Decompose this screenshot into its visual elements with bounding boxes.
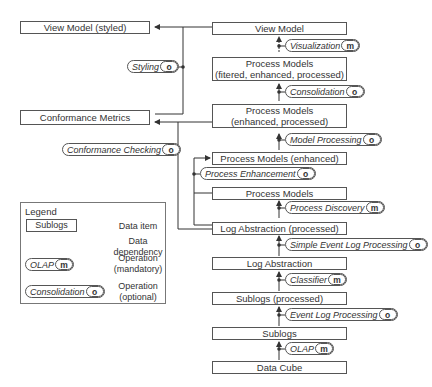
data-item-sublogs: Sublogs	[212, 327, 347, 340]
data-item-process-models-enhanced-processed: Process Models (enhanced, processed)	[212, 104, 347, 128]
data-item-process-models-enhanced: Process Models (enhanced)	[212, 152, 347, 165]
optional-badge: o	[379, 309, 397, 320]
mandatory-badge: m	[315, 343, 333, 354]
data-item-process-models-filtered: Process Models (fitered, enhanced, proce…	[212, 57, 347, 81]
data-item-label: Process Models (enhanced)	[220, 153, 338, 164]
optional-badge: o	[162, 144, 180, 155]
data-item-label: Conformance Metrics	[40, 112, 130, 123]
operation-olap: OLAPm	[285, 342, 334, 355]
legend-optional-example: Consolidationo	[25, 285, 105, 298]
data-item-view-model: View Model	[212, 22, 347, 35]
optional-badge: o	[409, 239, 427, 250]
data-item-label: Sublogs (processed)	[236, 293, 323, 304]
operation-consolidation: Consolidationo	[285, 85, 365, 98]
operation-model-processing: Model Processingo	[285, 133, 382, 146]
mandatory-badge: m	[341, 40, 359, 51]
legend-optional-desc: Operation (optional)	[109, 281, 167, 303]
data-item-log-abstraction: Log Abstraction	[212, 257, 347, 270]
data-item-label: (enhanced, processed)	[231, 116, 328, 127]
data-item-label: Process Models	[246, 58, 314, 69]
data-item-label: View Model (styled)	[44, 22, 127, 33]
operation-conformance-checking: Conformance Checkingo	[62, 143, 181, 156]
operation-classifier: Classifierm	[285, 273, 347, 286]
legend-mandatory-desc: Operation (mandatory)	[109, 253, 167, 275]
data-item-data-cube: Data Cube	[212, 361, 347, 374]
data-item-label: Log Abstraction	[247, 258, 313, 269]
operation-styling: Stylingo	[127, 60, 179, 73]
data-item-process-models: Process Models	[212, 187, 347, 200]
data-item-label: (fitered, enhanced, processed)	[215, 69, 344, 80]
operation-process-discovery: Process Discoverym	[285, 201, 385, 214]
process-mining-diagram: View Model (styled) Conformance Metrics …	[0, 0, 432, 387]
data-item-label: Log Abstraction (processed)	[220, 223, 338, 234]
optional-badge: o	[297, 168, 315, 179]
operation-simple-event-log-processing: Simple Event Log Processingo	[285, 238, 428, 251]
data-item-label: Data Cube	[257, 362, 302, 373]
legend-mandatory-example: OLAPm	[25, 258, 74, 271]
mandatory-badge: m	[366, 202, 384, 213]
mandatory-badge: m	[55, 259, 73, 270]
data-item-sublogs-processed: Sublogs (processed)	[212, 292, 347, 305]
optional-badge: o	[160, 61, 178, 72]
legend-data-item-example: Sublogs	[26, 219, 77, 232]
data-item-label: Sublogs	[262, 328, 296, 339]
operation-visualization: Visualizationm	[285, 39, 360, 52]
data-item-label: Process Models	[246, 188, 314, 199]
data-item-log-abstraction-processed: Log Abstraction (processed)	[212, 222, 347, 235]
data-item-conformance-metrics: Conformance Metrics	[20, 110, 150, 125]
optional-badge: o	[86, 286, 104, 297]
mandatory-badge: m	[328, 274, 346, 285]
data-item-label: View Model	[255, 23, 304, 34]
data-item-label: Process Models	[246, 105, 314, 116]
operation-process-enhancement: Process Enhancemento	[200, 167, 316, 180]
data-item-view-model-styled: View Model (styled)	[20, 21, 150, 34]
optional-badge: o	[363, 134, 381, 145]
legend-data-item-desc: Data item	[113, 221, 163, 232]
legend: Legend Sublogs Data item Data dependency…	[20, 202, 166, 304]
operation-event-log-processing: Event Log Processingo	[285, 308, 398, 321]
optional-badge: o	[346, 86, 364, 97]
legend-title: Legend	[25, 206, 57, 217]
